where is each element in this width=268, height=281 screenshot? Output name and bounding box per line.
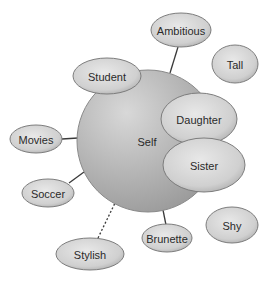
node-brunette-label: Brunette — [146, 233, 188, 245]
node-tall[interactable]: Tall — [212, 45, 258, 83]
node-soccer-label: Soccer — [31, 188, 66, 200]
node-ambitious[interactable]: Ambitious — [151, 13, 211, 47]
connector-soccer-to-self — [69, 172, 84, 183]
connector-movies-to-self — [62, 138, 78, 139]
node-daughter-label: Daughter — [176, 114, 222, 126]
node-student[interactable]: Student — [73, 58, 141, 94]
node-tall-label: Tall — [227, 59, 244, 71]
node-sister[interactable]: Sister — [163, 138, 245, 192]
self-label: Self — [138, 136, 158, 148]
node-movies-label: Movies — [19, 134, 54, 146]
node-stylish[interactable]: Stylish — [56, 238, 124, 270]
node-shy[interactable]: Shy — [206, 207, 258, 243]
self-concept-diagram: Self AmbitiousTallStudentDaughterSisterM… — [0, 0, 268, 281]
node-stylish-label: Stylish — [74, 249, 106, 261]
node-ambitious-label: Ambitious — [157, 25, 206, 37]
node-daughter[interactable]: Daughter — [161, 93, 237, 145]
node-shy-label: Shy — [223, 220, 242, 232]
connector-ambitious-to-self — [170, 47, 178, 73]
connector-brunette-to-self — [163, 210, 166, 225]
node-movies[interactable]: Movies — [10, 125, 62, 153]
node-soccer[interactable]: Soccer — [22, 179, 74, 207]
connector-stylish-to-self — [98, 203, 115, 238]
node-brunette[interactable]: Brunette — [142, 224, 192, 252]
node-student-label: Student — [88, 71, 126, 83]
node-sister-label: Sister — [190, 160, 218, 172]
